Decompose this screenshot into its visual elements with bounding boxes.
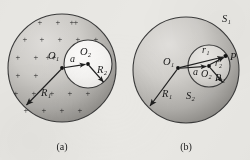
panel-b-label-o2: O₂ — [201, 68, 212, 79]
svg-text:+: + — [70, 17, 75, 27]
panel-a-label-r1: R₁ — [40, 87, 51, 98]
svg-text:+: + — [40, 34, 45, 44]
svg-text:+: + — [58, 34, 63, 44]
panel-b-label-s1: S₁ — [222, 13, 231, 24]
panel-b-label-r2-vector: r₂ — [215, 58, 223, 68]
svg-text:+: + — [68, 88, 73, 98]
panel-b-label-a: a — [193, 66, 198, 77]
physics-figure-svg: + + + + + + + + + + + + + + + + + + + + — [0, 0, 250, 160]
panel-a-label-o2: O₂ — [80, 46, 92, 57]
panel-b-label-s2: S₂ — [186, 90, 195, 101]
panel-b-label-o1: O₁ — [163, 56, 174, 67]
svg-text:+: + — [23, 34, 28, 44]
panel-a-label-a: a — [70, 53, 75, 64]
svg-text:+: + — [60, 105, 65, 115]
svg-text:+: + — [16, 52, 21, 62]
panel-b-center-o1-dot — [176, 66, 180, 70]
svg-text:+: + — [34, 52, 39, 62]
panel-b-caption: (b) — [180, 141, 192, 153]
panel-a: + + + + + + + + + + + + + + + + + + + + — [8, 14, 116, 153]
figure-container: + + + + + + + + + + + + + + + + + + + + — [0, 0, 250, 160]
svg-text:+: + — [16, 70, 21, 80]
panel-a-label-o1: O₁ — [48, 50, 59, 61]
panel-b-label-r1-cap: R₁ — [161, 88, 172, 99]
panel-b-field-point-p-dot — [223, 54, 227, 58]
svg-text:+: + — [24, 105, 29, 115]
panel-b: S₁ S₂ O₁ O₂ r₁ r₂ P a R₁ R₂ (b) — [133, 13, 239, 153]
panel-b-label-p: P — [229, 51, 237, 62]
svg-text:+: + — [42, 105, 47, 115]
panel-b-label-r2-cap: R₂ — [214, 72, 225, 83]
svg-text:+: + — [38, 17, 43, 27]
svg-text:+: + — [14, 88, 19, 98]
panel-a-caption: (a) — [56, 141, 67, 153]
svg-text:+: + — [34, 70, 39, 80]
svg-text:+: + — [78, 105, 83, 115]
panel-a-label-r2: R₂ — [96, 64, 107, 75]
svg-text:+: + — [86, 88, 91, 98]
panel-b-label-r1-vector: r₁ — [202, 44, 209, 55]
svg-text:+: + — [56, 17, 61, 27]
